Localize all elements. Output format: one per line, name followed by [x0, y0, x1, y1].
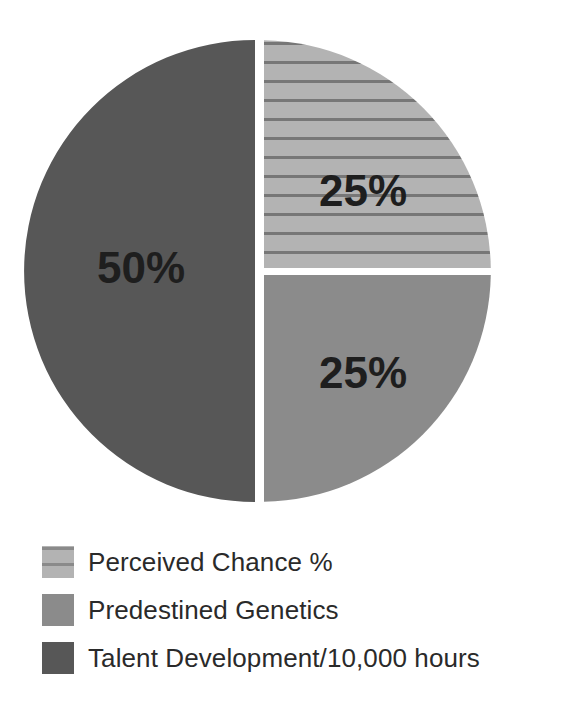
legend-label: Predestined Genetics [88, 595, 339, 626]
slice-label-talent-development: 50% [97, 243, 185, 292]
legend-item-predestined-genetics: Predestined Genetics [42, 586, 480, 634]
legend-swatch-medium [42, 594, 74, 626]
legend-label: Talent Development/10,000 hours [88, 643, 480, 674]
slice-label-predestined-genetics: 25% [319, 348, 407, 397]
legend-item-talent-development: Talent Development/10,000 hours [42, 634, 480, 682]
legend-swatch-striped [42, 546, 74, 578]
legend-label: Perceived Chance % [88, 547, 333, 578]
chart-legend: Perceived Chance % Predestined Genetics … [42, 538, 480, 682]
slice-perceived-chance [264, 40, 491, 268]
pie-chart: 50% 25% 25% [0, 0, 585, 520]
slice-label-perceived-chance: 25% [319, 166, 407, 215]
legend-item-perceived-chance: Perceived Chance % [42, 538, 480, 586]
legend-swatch-dark [42, 642, 74, 674]
